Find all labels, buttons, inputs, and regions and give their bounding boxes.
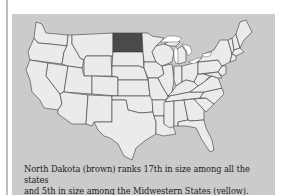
state-north-dakota xyxy=(113,33,143,52)
state-washington xyxy=(34,22,68,46)
caption-line-2: and 5th in size among the Midwestern Sta… xyxy=(24,186,276,195)
state-florida xyxy=(178,120,214,152)
state-arizona xyxy=(58,92,88,124)
caption-line-1: North Dakota (brown) ranks 17th in size … xyxy=(24,164,276,186)
state-colorado xyxy=(92,76,118,96)
state-wyoming xyxy=(84,56,112,76)
state-kansas xyxy=(118,80,150,96)
us-states-map xyxy=(12,14,275,164)
state-south-dakota xyxy=(112,52,144,68)
state-mississippi xyxy=(164,101,174,128)
map-figure-panel: North Dakota (brown) ranks 17th in size … xyxy=(12,14,275,195)
figure-caption: North Dakota (brown) ranks 17th in size … xyxy=(24,164,276,195)
lake-michigan xyxy=(174,46,178,64)
state-new-mexico xyxy=(86,95,112,126)
left-margin-rule xyxy=(6,0,8,195)
